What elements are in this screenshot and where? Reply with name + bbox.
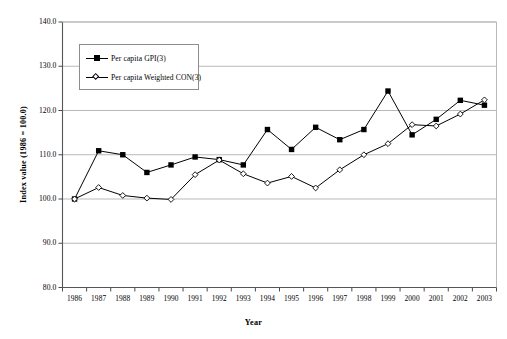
data-point-marker <box>289 147 294 152</box>
data-point-marker <box>457 111 463 117</box>
data-point-marker <box>96 185 102 191</box>
data-point-marker <box>434 117 439 122</box>
data-point-marker <box>289 174 295 180</box>
data-point-marker <box>337 137 342 142</box>
chart-container: Index value (1986 = 100.0) Year 80.090.0… <box>0 0 507 339</box>
legend: Per capita GPI(3) Per capita Weighted CO… <box>79 44 199 90</box>
series-0 <box>72 88 487 201</box>
data-point-marker <box>144 195 150 201</box>
legend-item-1-label: Per capita Weighted CON(3) <box>111 73 201 82</box>
data-point-marker <box>265 180 271 186</box>
data-point-marker <box>265 127 270 132</box>
data-point-marker <box>385 88 390 93</box>
data-series-layer <box>72 88 488 202</box>
open-diamond-marker-icon <box>86 72 108 82</box>
data-point-marker <box>120 152 125 157</box>
data-point-marker <box>361 152 367 158</box>
data-point-marker <box>433 123 439 129</box>
data-point-marker <box>96 148 101 153</box>
data-point-marker <box>409 132 414 137</box>
data-point-marker <box>120 193 126 199</box>
filled-square-marker-icon <box>86 53 108 63</box>
data-point-marker <box>361 127 366 132</box>
data-point-marker <box>241 162 246 167</box>
data-point-marker <box>144 170 149 175</box>
series-line <box>75 100 485 200</box>
legend-item-0-label: Per capita GPI(3) <box>111 54 166 63</box>
x-tick-marks <box>63 288 497 292</box>
series-1 <box>72 97 488 202</box>
data-point-marker <box>482 97 488 103</box>
data-point-marker <box>313 125 318 130</box>
data-point-marker <box>240 171 246 177</box>
data-point-marker <box>192 154 197 159</box>
data-point-marker <box>168 162 173 167</box>
legend-item-0: Per capita GPI(3) <box>86 52 166 64</box>
series-line <box>75 91 485 199</box>
plot-area <box>0 0 507 339</box>
data-point-marker <box>458 98 463 103</box>
legend-item-1: Per capita Weighted CON(3) <box>86 71 201 83</box>
